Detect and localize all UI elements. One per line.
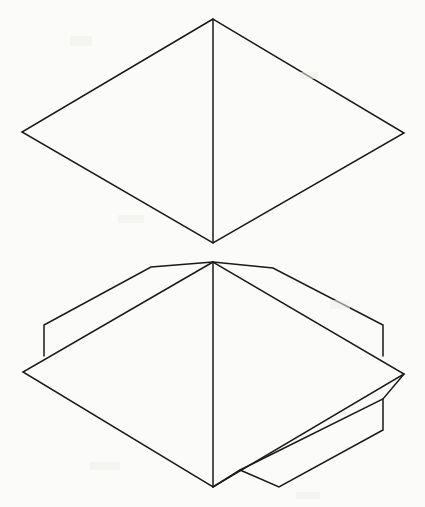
- lower-pyramid-group: [23, 262, 404, 487]
- pyramid-fold-diagram: [0, 0, 425, 507]
- diagram-canvas: [0, 0, 425, 507]
- flap-lower-right-edge: [240, 399, 383, 487]
- upper-pyramid-group: [22, 19, 404, 243]
